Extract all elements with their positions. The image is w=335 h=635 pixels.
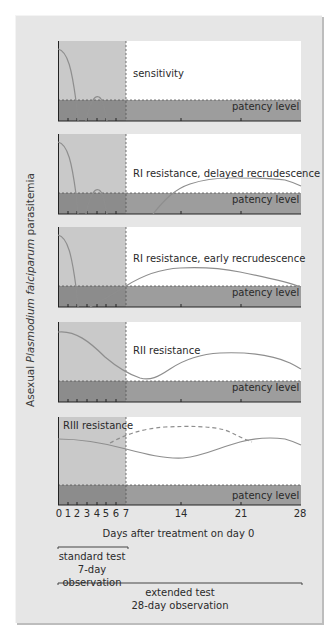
standard-test-bracket <box>58 547 128 549</box>
patency-label-5: patency level <box>232 490 299 501</box>
x-tick-1: 1 <box>65 508 71 519</box>
panel-label-sensitivity: sensitivity <box>133 68 184 79</box>
x-tick-7: 7 <box>123 508 129 519</box>
x-tick-21: 21 <box>235 508 248 519</box>
x-tick-28: 28 <box>294 508 307 519</box>
patency-label-4: patency level <box>232 382 299 393</box>
panel-label-riii: RIII resistance <box>63 420 133 431</box>
patency-label-3: patency level <box>232 287 299 298</box>
x-tick-5: 5 <box>103 508 109 519</box>
panel-label-rii: RII resistance <box>133 345 200 356</box>
patency-label-2: patency level <box>232 194 299 205</box>
x-tick-14: 14 <box>175 508 188 519</box>
panel-label-ri-early: RI resistance, early recrudescence <box>133 253 305 264</box>
standard-test-label: standard test 7-day observation <box>50 550 134 589</box>
panel-label-ri-delayed: RI resistance, delayed recrudescence <box>133 168 320 179</box>
patency-label-1: patency level <box>232 101 299 112</box>
chart-svg <box>0 0 335 635</box>
standard-test-line1: standard test <box>50 550 134 563</box>
x-tick-6: 6 <box>113 508 119 519</box>
x-tick-3: 3 <box>84 508 90 519</box>
x-tick-2: 2 <box>74 508 80 519</box>
x-tick-0: 0 <box>56 508 62 519</box>
extended-test-line1: extended test <box>58 586 302 599</box>
x-axis-label: Days after treatment on day 0 <box>0 528 335 539</box>
extended-test-label: extended test 28-day observation <box>58 586 302 612</box>
x-tick-4: 4 <box>94 508 100 519</box>
extended-test-line2: 28-day observation <box>58 599 302 612</box>
